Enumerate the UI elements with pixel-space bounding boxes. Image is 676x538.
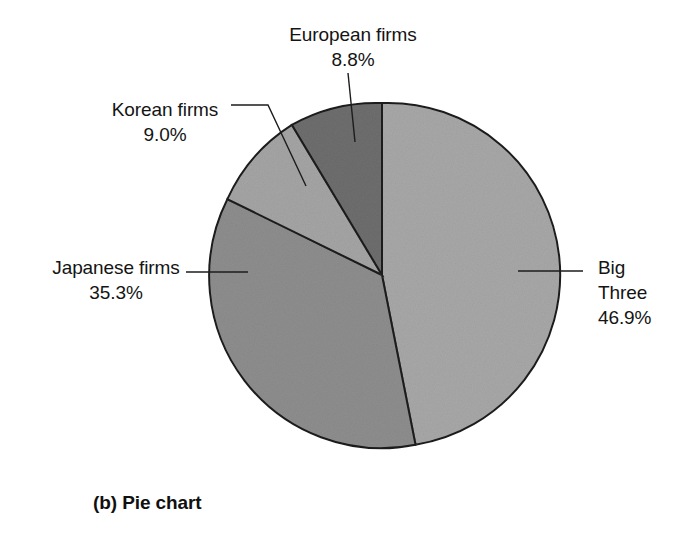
pie-chart-figure: European firms 8.8% Korean firms 9.0% Ja… [0, 0, 676, 538]
pie-label-korean-firms-value: 9.0% [70, 122, 260, 147]
figure-caption: (b) Pie chart [93, 491, 202, 515]
pie-label-european-firms-value: 8.8% [258, 47, 448, 72]
pie-slice-big-three [382, 103, 560, 445]
pie-label-korean-firms-name: Korean firms [70, 97, 260, 122]
pie-label-big-three: Big Three 46.9% [598, 255, 676, 330]
pie-label-european-firms-name: European firms [258, 22, 448, 47]
pie-label-big-three-value: 46.9% [598, 305, 676, 330]
pie-label-big-three-name-line1: Big [598, 255, 676, 280]
pie-label-japanese-firms-value: 35.3% [14, 280, 218, 305]
pie-label-japanese-firms-name: Japanese firms [14, 255, 218, 280]
pie-label-korean-firms: Korean firms 9.0% [70, 97, 260, 147]
pie-label-japanese-firms: Japanese firms 35.3% [14, 255, 218, 305]
pie-label-european-firms: European firms 8.8% [258, 22, 448, 72]
pie-label-big-three-name-line2: Three [598, 280, 676, 305]
